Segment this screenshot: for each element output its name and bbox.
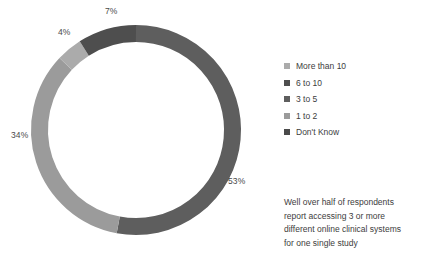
legend-swatch-icon <box>284 96 290 102</box>
donut-svg <box>0 0 272 266</box>
legend-item-more-than-10[interactable]: More than 10 <box>284 58 416 75</box>
legend-label: 3 to 5 <box>296 94 317 104</box>
donut-slice-more-than-10 <box>66 49 85 64</box>
donut-chart: 7% 4% 34% 53% <box>0 0 272 266</box>
legend-swatch-icon <box>284 80 290 86</box>
slice-label-more-than-10: 4% <box>58 27 71 37</box>
slice-label-1-to-2: 34% <box>11 130 28 140</box>
legend-swatch-icon <box>284 63 290 69</box>
slice-label-6-to-10: 7% <box>105 6 118 16</box>
legend-swatch-icon <box>284 129 290 135</box>
chart-caption: Well over half of respondents report acc… <box>284 196 418 250</box>
legend-item-3-to-5[interactable]: 3 to 5 <box>284 91 416 108</box>
donut-slice-6-to-10 <box>84 34 136 49</box>
caption-line: report accessing 3 or more <box>284 210 418 224</box>
chart-legend: More than 10 6 to 10 3 to 5 1 to 2 Don't… <box>284 58 416 141</box>
legend-swatch-icon <box>284 113 290 119</box>
donut-slice-3-to-5 <box>118 34 232 227</box>
caption-line: different online clinical systems <box>284 223 418 237</box>
legend-label: 1 to 2 <box>296 111 317 121</box>
legend-item-6-to-10[interactable]: 6 to 10 <box>284 75 416 92</box>
legend-label: Don't Know <box>296 127 339 137</box>
slice-label-3-to-5: 53% <box>228 176 245 186</box>
legend-item-1-to-2[interactable]: 1 to 2 <box>284 108 416 125</box>
caption-line: for one single study <box>284 237 418 251</box>
legend-label: 6 to 10 <box>296 78 322 88</box>
legend-label: More than 10 <box>296 61 346 71</box>
chart-page: 7% 4% 34% 53% More than 10 6 to 10 3 to … <box>0 0 421 266</box>
legend-item-dont-know[interactable]: Don't Know <box>284 124 416 141</box>
donut-slice-1-to-2 <box>39 64 118 225</box>
caption-line: Well over half of respondents <box>284 196 418 210</box>
